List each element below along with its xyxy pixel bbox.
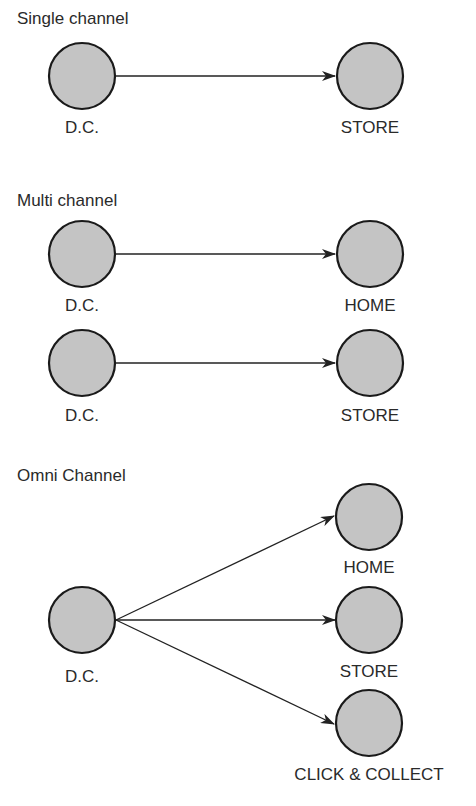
node-dc [49, 43, 115, 109]
node-store [336, 587, 402, 653]
section-title-omni-channel: Omni Channel [17, 466, 126, 486]
arrow-dc-to-click-collect [116, 620, 334, 724]
node-dc [49, 221, 115, 287]
omni-channel-diagram [49, 484, 402, 756]
section-title-single-channel: Single channel [17, 9, 129, 29]
node-label-home: HOME [345, 296, 396, 316]
node-label-dc: D.C. [65, 118, 99, 138]
node-label-dc: D.C. [65, 296, 99, 316]
single-channel-diagram [49, 43, 403, 109]
node-home [336, 484, 402, 550]
arrow-dc-to-home [116, 516, 334, 620]
node-home [337, 221, 403, 287]
node-store [337, 43, 403, 109]
node-label-home: HOME [344, 558, 395, 578]
node-label-store: STORE [340, 662, 398, 682]
section-title-multi-channel: Multi channel [17, 191, 117, 211]
node-click-collect [336, 690, 402, 756]
node-label-dc: D.C. [65, 667, 99, 687]
node-dc [49, 330, 115, 396]
node-dc [49, 587, 115, 653]
node-label-dc: D.C. [65, 406, 99, 426]
node-label-click-collect: CLICK & COLLECT [294, 765, 443, 785]
node-label-store: STORE [341, 406, 399, 426]
node-label-store: STORE [341, 118, 399, 138]
node-store [337, 330, 403, 396]
